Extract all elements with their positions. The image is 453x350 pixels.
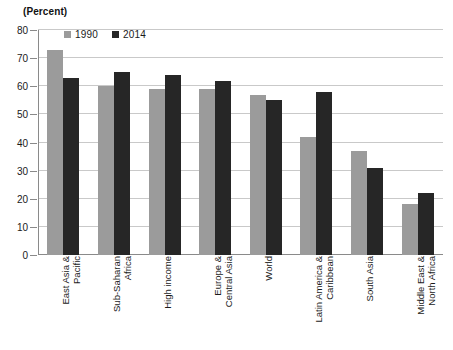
bar-2014 xyxy=(418,193,434,255)
x-axis-category-label: High income xyxy=(162,256,173,309)
y-axis-tick-mark xyxy=(30,171,37,172)
bar-chart: (Percent) 1990 2014 01020304050607080 Ea… xyxy=(0,0,453,350)
y-axis-tick-mark xyxy=(30,30,37,31)
bar-1990 xyxy=(47,50,63,255)
bar-group xyxy=(149,30,181,255)
bar-2014 xyxy=(165,75,181,255)
bar-2014 xyxy=(63,78,79,255)
axis-unit-label: (Percent) xyxy=(23,6,67,17)
x-axis-category-label: Middle East &North Africa xyxy=(415,256,437,315)
x-axis-category-label: World xyxy=(263,256,274,281)
x-axis-category-labels: East Asia &PacificSub-SaharanAfricaHigh … xyxy=(38,256,443,350)
y-axis-tick-mark xyxy=(30,199,37,200)
bar-2014 xyxy=(316,92,332,255)
bar-1990 xyxy=(149,89,165,255)
bar-group xyxy=(402,30,434,255)
y-axis-tick-marks xyxy=(0,30,38,255)
bar-group xyxy=(98,30,130,255)
y-axis-tick-mark xyxy=(30,114,37,115)
bar-group xyxy=(351,30,383,255)
bar-group xyxy=(300,30,332,255)
bar-2014 xyxy=(367,168,383,255)
x-axis-category-label: Sub-SaharanAfrica xyxy=(111,256,133,312)
bar-2014 xyxy=(114,72,130,255)
y-axis-tick-mark xyxy=(30,143,37,144)
plot-area xyxy=(38,30,443,255)
y-axis-tick-mark xyxy=(30,58,37,59)
bar-1990 xyxy=(98,86,114,255)
bar-group xyxy=(250,30,282,255)
y-axis-tick-mark xyxy=(30,227,37,228)
bar-2014 xyxy=(266,100,282,255)
x-axis-category-label: Latin America &Caribbean xyxy=(313,256,335,323)
x-axis-category-label: Europe &Central Asia xyxy=(212,256,234,307)
bar-1990 xyxy=(250,95,266,255)
bar-1990 xyxy=(300,137,316,255)
bar-group xyxy=(199,30,231,255)
y-axis-tick-mark xyxy=(30,255,37,256)
bar-1990 xyxy=(199,89,215,255)
bar-groups xyxy=(38,30,443,255)
x-axis-category-label: East Asia &Pacific xyxy=(60,256,82,305)
x-axis-category-label: South Asia xyxy=(364,256,375,301)
y-axis-tick-mark xyxy=(30,86,37,87)
bar-1990 xyxy=(351,151,367,255)
bar-2014 xyxy=(215,81,231,255)
bar-group xyxy=(47,30,79,255)
bar-1990 xyxy=(402,204,418,255)
